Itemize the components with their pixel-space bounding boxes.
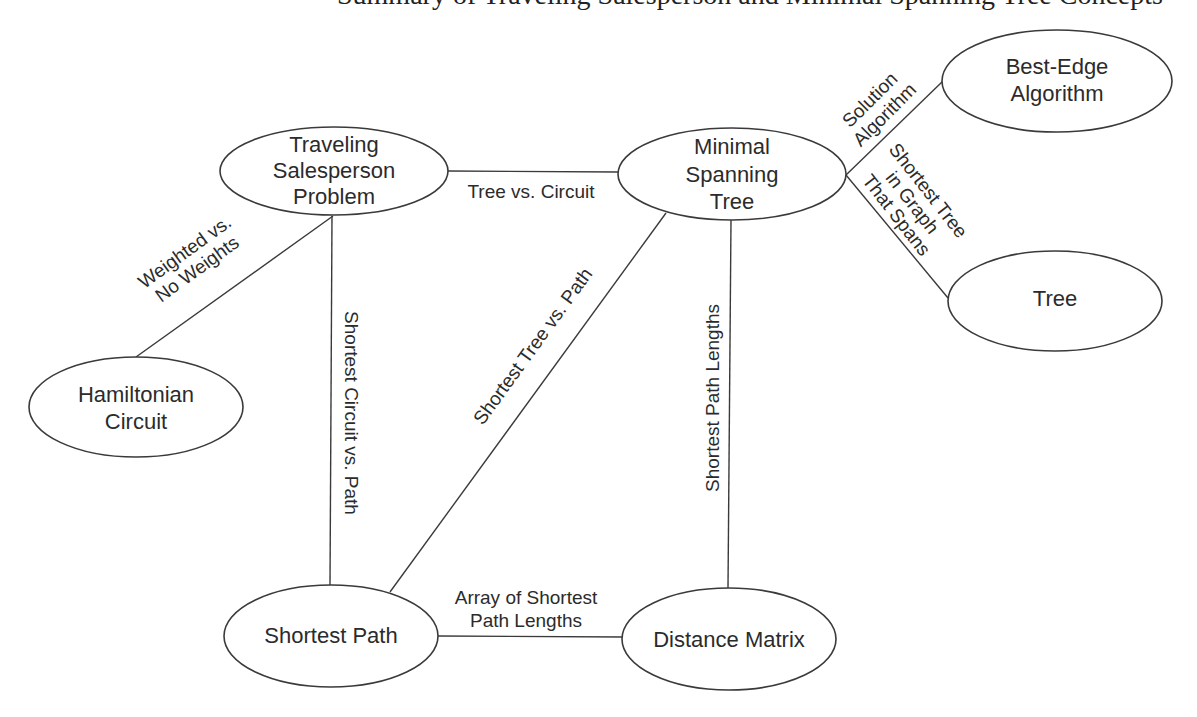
node-label-line: Circuit — [105, 409, 167, 434]
node-label-line: Hamiltonian — [78, 382, 194, 407]
clipped-title-text: Summary of Traveling Salesperson and Min… — [337, 0, 1163, 10]
node-label-line: Tree — [1033, 286, 1077, 311]
edge-label-line: Shortest Tree vs. Path — [469, 264, 596, 428]
edge-label-shortest-path-distance-matrix: Array of Shortest — [455, 587, 598, 608]
edge-label-mst-tree: Shortest Tree in Graph That Spans — [853, 139, 971, 266]
edge-label-line: Path Lengths — [470, 610, 582, 631]
edge-label-tsp-shortest-path: Shortest Circuit vs. Path — [341, 311, 362, 515]
node-label-line: Distance Matrix — [653, 627, 805, 652]
node-mst[interactable]: Minimal Spanning Tree — [618, 128, 846, 220]
node-distance-matrix[interactable]: Distance Matrix — [622, 588, 836, 690]
node-label-line: Algorithm — [1011, 81, 1104, 106]
node-best-edge-algorithm[interactable]: Best-Edge Algorithm — [942, 30, 1172, 132]
node-tree[interactable]: Tree — [948, 251, 1162, 351]
edge-mst-shortest-path — [390, 213, 666, 592]
node-label-line: Problem — [293, 184, 375, 209]
edge-tsp-shortest-path — [330, 216, 332, 585]
edge-label-line: Shortest Path Lengths — [702, 304, 723, 492]
edge-label-tsp-mst: Tree vs. Circuit — [467, 181, 595, 202]
edge-label-mst-shortest-path: Shortest Tree vs. Path — [469, 264, 596, 428]
edge-label-line: Tree vs. Circuit — [467, 181, 595, 202]
svg-text:Shortest Tree vs. Path: Shortest Tree vs. Path — [469, 264, 596, 428]
svg-text:Shortest Path Lengths: Shortest Path Lengths — [702, 304, 723, 492]
node-label-line: Minimal — [694, 134, 770, 159]
edge-shortest-path-distance-matrix — [438, 636, 623, 637]
edge-label-mst-distance-matrix: Shortest Path Lengths — [702, 304, 723, 492]
edge-label-line: Shortest Circuit vs. Path — [341, 311, 362, 515]
edge-label-mst-best-edge: Solution Algorithm — [834, 64, 920, 150]
edge-tsp-mst — [448, 171, 618, 172]
node-ellipse — [29, 357, 243, 457]
node-tsp[interactable]: Traveling Salesperson Problem — [220, 127, 448, 215]
concept-map: Summary of Traveling Salesperson and Min… — [0, 0, 1197, 717]
node-hamiltonian-circuit[interactable]: Hamiltonian Circuit — [29, 357, 243, 457]
node-label-line: Spanning — [686, 162, 779, 187]
edge-label-shortest-path-distance-matrix-line2: Path Lengths — [470, 610, 582, 631]
node-label-line: Best-Edge — [1006, 54, 1109, 79]
node-label-line: Salesperson — [273, 158, 395, 183]
node-label-line: Shortest Path — [264, 623, 397, 648]
node-label-line: Tree — [710, 189, 754, 214]
node-shortest-path[interactable]: Shortest Path — [224, 585, 438, 687]
edge-label-tsp-hamiltonian: Weighted vs. No Weights — [134, 211, 247, 309]
node-label-line: Traveling — [289, 132, 379, 157]
edge-label-line: Array of Shortest — [455, 587, 598, 608]
svg-text:Shortest Circuit vs. Path: Shortest Circuit vs. Path — [341, 311, 362, 515]
edge-mst-distance-matrix — [728, 220, 731, 588]
